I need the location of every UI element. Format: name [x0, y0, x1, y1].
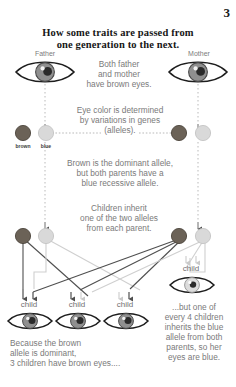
- child-1-eye-icon: [6, 310, 54, 332]
- child-4-label: child: [170, 264, 212, 273]
- mother-eye-icon: [167, 58, 229, 86]
- brown-allele-dot: [15, 228, 30, 243]
- brown-allele-dot: [171, 228, 186, 243]
- mother-allele-pair-row1: [170, 125, 226, 142]
- blue-allele-dot: [38, 228, 53, 243]
- child-4-eye-icon: [168, 274, 216, 296]
- caption-inheritance: Children inherit one of the two alleles …: [58, 203, 180, 233]
- caption-line: inherits the blue: [156, 322, 232, 332]
- title-line-2: one generation to the next.: [0, 39, 236, 51]
- mother-label-wrap: Mother: [174, 50, 224, 57]
- mother-label: Mother: [174, 50, 224, 57]
- caption-line: and mother: [71, 69, 167, 79]
- caption-line: Both father: [71, 59, 167, 69]
- blue-allele-dot: [195, 228, 210, 243]
- caption-line: have brown eyes.: [71, 79, 167, 89]
- father-label: Father: [20, 50, 70, 57]
- child-1-label: child: [8, 300, 50, 309]
- caption-dominance: Brown is the dominant allele, but both p…: [51, 158, 189, 188]
- child-3-eye-icon: [102, 310, 150, 332]
- caption-line: Because the brown: [10, 338, 140, 348]
- caption-line: eyes are blue.: [156, 352, 232, 362]
- caption-line: parents, so her: [156, 342, 232, 352]
- father-allele-pair-row2: [14, 228, 70, 245]
- genetics-inheritance-diagram: 3 How some traits are passed from one ge…: [0, 0, 236, 387]
- caption-line: Brown is the dominant allele,: [51, 158, 189, 168]
- child-2-eye-icon: [54, 310, 102, 332]
- caption-line: blue recessive allele.: [51, 178, 189, 188]
- caption-line: by variations in genes: [63, 115, 177, 125]
- blue-allele-label: blue: [32, 143, 60, 149]
- caption-line: (alleles).: [63, 125, 177, 135]
- caption-brown-result: Because the brown allele is dominant, 3 …: [10, 338, 140, 368]
- caption-alleles: Eye color is determined by variations in…: [63, 105, 177, 135]
- mother-allele-pair-row2: [170, 228, 226, 245]
- page-title: How some traits are passed from one gene…: [0, 27, 236, 50]
- caption-line: one of the two alleles: [58, 213, 180, 223]
- caption-line: but both parents have a: [51, 168, 189, 178]
- blue-allele-dot: [195, 125, 210, 140]
- father-label-wrap: Father: [20, 50, 70, 57]
- page-number: 3: [224, 5, 231, 21]
- caption-line: ...but one of: [156, 302, 232, 312]
- caption-line: from each parent.: [58, 223, 180, 233]
- caption-blue-result: ...but one of every 4 children inherits …: [156, 302, 232, 362]
- brown-allele-dot: [15, 125, 30, 140]
- caption-parents-eyes: Both father and mother have brown eyes.: [71, 59, 167, 89]
- caption-line: allele from both: [156, 332, 232, 342]
- father-eye-icon: [14, 58, 76, 86]
- father-allele-pair-row1: [14, 125, 70, 142]
- caption-line: Eye color is determined: [63, 105, 177, 115]
- child-3-label: child: [104, 300, 146, 309]
- blue-allele-dot: [38, 125, 53, 140]
- caption-line: every 4 children: [156, 312, 232, 322]
- caption-line: Children inherit: [58, 203, 180, 213]
- child-2-label: child: [56, 300, 98, 309]
- caption-line: allele is dominant,: [10, 348, 140, 358]
- title-line-1: How some traits are passed from: [0, 27, 236, 39]
- caption-line: 3 children have brown eyes....: [10, 358, 140, 368]
